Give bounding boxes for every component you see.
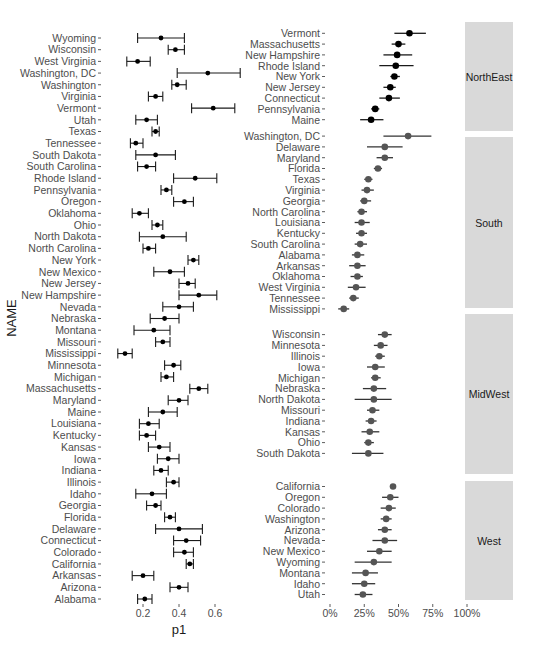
data-point	[191, 258, 196, 263]
row-north-dakota: North Dakota	[34, 230, 186, 242]
data-point	[160, 234, 165, 239]
data-point	[387, 494, 394, 501]
data-point	[368, 116, 375, 123]
row-texas: Texas	[69, 125, 160, 137]
state-label: Maine	[67, 406, 96, 418]
data-point	[157, 445, 162, 450]
state-label: Arkansas	[52, 569, 96, 581]
row-utah: Utah	[298, 588, 373, 600]
row-new-hampshire: New Hampshire	[21, 289, 217, 301]
data-point	[177, 585, 182, 590]
row-maryland: Maryland	[53, 394, 188, 406]
data-point	[357, 241, 364, 248]
data-point	[153, 129, 158, 134]
x-tick-label: 0.2	[136, 607, 151, 619]
row-north-dakota: North Dakota	[258, 393, 392, 405]
x-tick-label: 25%	[354, 607, 375, 619]
state-label: Nebraska	[51, 312, 96, 324]
data-point	[365, 439, 372, 446]
data-point	[364, 187, 371, 194]
data-point	[372, 375, 379, 382]
state-label: Oregon	[61, 195, 96, 207]
data-point	[354, 273, 361, 280]
data-point	[133, 141, 138, 146]
row-nevada: Nevada	[60, 301, 194, 313]
state-label: Tennessee	[45, 137, 96, 149]
row-colorado: Colorado	[53, 546, 193, 558]
data-point	[141, 573, 146, 578]
state-label: Utah	[74, 114, 96, 126]
state-label: Florida	[64, 511, 96, 523]
data-point	[382, 331, 389, 338]
row-nebraska: Nebraska	[51, 312, 179, 324]
state-label: Connecticut	[41, 534, 97, 546]
data-point	[168, 515, 173, 520]
data-point	[160, 339, 165, 344]
row-minnesota: Minnesota	[272, 339, 388, 351]
data-point	[153, 152, 158, 157]
data-point	[361, 580, 368, 587]
x-tick-label: 100%	[454, 607, 481, 619]
state-label: Delaware	[52, 523, 97, 535]
state-label: Missouri	[57, 336, 96, 348]
data-point	[369, 407, 376, 414]
data-point	[383, 516, 390, 523]
data-point	[366, 429, 373, 436]
data-point	[196, 386, 201, 391]
data-point	[365, 176, 372, 183]
data-point	[340, 306, 347, 313]
data-point	[377, 342, 384, 349]
data-point	[391, 73, 398, 80]
data-point	[371, 396, 378, 403]
row-kentucky: Kentucky	[53, 429, 156, 441]
row-massachusetts: Massachusetts	[26, 382, 208, 394]
state-label: Louisiana	[51, 417, 96, 429]
state-label: Montana	[55, 324, 96, 336]
state-label: Massachusetts	[26, 382, 96, 394]
row-alabama: Alabama	[55, 593, 152, 605]
data-point	[135, 59, 140, 64]
data-point	[182, 550, 187, 555]
data-point	[394, 52, 401, 59]
data-point	[386, 95, 393, 102]
state-label: California	[52, 558, 97, 570]
row-vermont: Vermont	[57, 102, 235, 114]
data-point	[159, 468, 164, 473]
row-new-mexico: New Mexico	[39, 266, 185, 278]
state-label: Georgia	[59, 499, 97, 511]
data-point	[371, 385, 378, 392]
state-label: Kentucky	[53, 429, 97, 441]
x-tick-label: 75%	[422, 607, 443, 619]
data-point	[371, 559, 378, 566]
x-tick-label: 50%	[388, 607, 409, 619]
data-point	[205, 71, 210, 76]
data-point	[353, 284, 360, 291]
state-label: West Virginia	[35, 55, 97, 67]
state-label: Pennsylvania	[34, 184, 97, 196]
row-delaware: Delaware	[52, 523, 203, 535]
state-label: South Carolina	[27, 160, 97, 172]
row-mississippi: Mississippi	[45, 347, 132, 359]
data-point	[160, 410, 165, 415]
row-north-carolina: North Carolina	[28, 242, 155, 254]
state-label: Virginia	[61, 90, 96, 102]
data-point	[406, 30, 413, 37]
row-michigan: Michigan	[54, 371, 174, 383]
data-point	[153, 503, 158, 508]
state-label: Mississippi	[269, 303, 320, 315]
row-washington-dc: Washington, DC	[244, 130, 431, 142]
data-point	[146, 246, 151, 251]
facet-midwest: MidWestWisconsinMinnesotaIllinoisIowaMic…	[256, 314, 513, 474]
row-arizona: Arizona	[60, 581, 188, 593]
state-label: Utah	[298, 588, 320, 600]
state-label: North Carolina	[28, 242, 96, 254]
facet-strip-label: West	[477, 535, 501, 547]
data-point	[193, 176, 198, 181]
data-point	[358, 230, 365, 237]
state-label: Texas	[69, 125, 96, 137]
data-point	[166, 456, 171, 461]
state-label: Alabama	[55, 593, 97, 605]
data-point	[144, 164, 149, 169]
data-point	[184, 538, 189, 543]
data-point	[375, 165, 382, 172]
